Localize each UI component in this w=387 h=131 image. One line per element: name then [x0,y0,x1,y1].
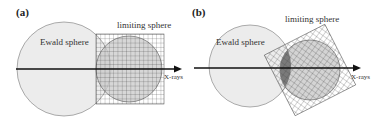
arrow-icon [353,65,361,72]
ewald-sphere-label: Ewald sphere [216,37,265,47]
ewald-diagram: (a) Ewald sphere limiting sphere X-rays … [0,0,387,131]
panel-b-label: (b) [192,6,206,19]
ewald-sphere-label: Ewald sphere [40,37,89,47]
x-rays-label: X-rays [164,73,183,81]
panel-b: (b) Ewald sphere limiting sphere X-rays [192,6,370,116]
limiting-sphere-label: limiting sphere [285,14,339,24]
panel-a-label: (a) [16,6,29,19]
limiting-sphere-label: limiting sphere [117,20,171,30]
arrow-icon [174,66,182,73]
panel-a: (a) Ewald sphere limiting sphere X-rays [16,6,183,116]
x-rays-label: X-rays [351,73,370,81]
